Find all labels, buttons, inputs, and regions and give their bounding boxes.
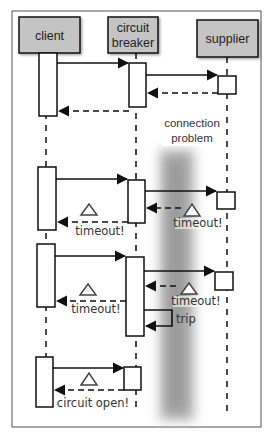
participant-supplier-label: supplier — [206, 32, 250, 46]
label-timeout-client: timeout! — [75, 224, 124, 238]
activation-supplier — [218, 76, 236, 94]
note-connection: connection — [164, 117, 220, 129]
participant-circuit-breaker: circuit breaker — [108, 17, 158, 53]
label-timeout-supplier: timeout! — [171, 294, 220, 308]
activation-breaker — [128, 180, 145, 223]
activation-breaker — [129, 63, 146, 107]
sequence-diagram: client circuit breaker supplier connecti… — [0, 0, 272, 435]
participant-client: client — [19, 17, 80, 53]
activation-client — [38, 167, 56, 230]
activation-client — [39, 53, 57, 116]
activation-breaker — [126, 257, 144, 336]
label-timeout-supplier: timeout! — [173, 216, 222, 230]
participant-breaker-label-1: circuit — [117, 21, 150, 35]
activation-supplier — [217, 192, 235, 209]
activation-breaker — [124, 367, 141, 390]
activation-client — [36, 357, 53, 407]
label-timeout-client: timeout! — [71, 302, 120, 316]
activation-supplier — [215, 272, 233, 290]
label-trip: trip — [176, 312, 196, 326]
activation-client — [37, 244, 55, 307]
participant-supplier: supplier — [197, 20, 258, 57]
label-circuit-open: circuit open! — [57, 396, 129, 410]
participant-client-label: client — [35, 29, 65, 43]
note-problem: problem — [171, 132, 213, 144]
participant-breaker-label-2: breaker — [112, 36, 154, 50]
